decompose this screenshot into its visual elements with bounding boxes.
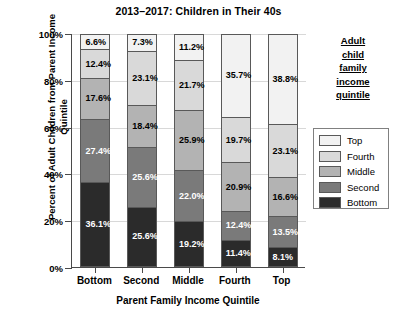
x-axis-tick <box>236 267 237 273</box>
bar-segment[interactable]: 25.6% <box>127 147 157 207</box>
bar-segment-label: 23.1% <box>269 147 299 156</box>
x-axis-tick-label: Second <box>123 275 159 286</box>
bar-segment-label: 22.0% <box>175 192 205 201</box>
bar-segment-label: 27.4% <box>81 147 111 156</box>
legend-item-label: Top <box>347 135 362 146</box>
chart-title: 2013–2017: Children in Their 40s <box>0 5 397 17</box>
x-axis-tick-label: Fourth <box>219 275 251 286</box>
y-axis-tick <box>65 34 72 35</box>
legend-box: TopFourthMiddleSecondBottom <box>313 128 389 209</box>
bar-segment[interactable]: 7.3% <box>127 34 157 52</box>
legend-swatch <box>319 182 341 193</box>
bar-segment[interactable]: 21.7% <box>174 60 204 111</box>
x-axis-title: Parent Family Income Quintile <box>71 295 305 306</box>
bar-segment[interactable]: 6.6% <box>80 34 110 50</box>
bar-segment[interactable]: 27.4% <box>80 119 110 184</box>
y-axis-tick-label: 20% <box>44 216 63 227</box>
legend-title-line: Adult <box>313 34 393 48</box>
y-axis-tick <box>65 268 72 269</box>
x-axis-tick <box>189 267 190 273</box>
legend-title-line: family <box>313 61 393 75</box>
bar-segment[interactable]: 23.1% <box>268 124 298 179</box>
bar-segment-label: 16.6% <box>269 193 299 202</box>
y-axis-tick-label: 40% <box>44 169 63 180</box>
bar-segment[interactable]: 36.1% <box>80 182 110 267</box>
bar-segment[interactable]: 11.4% <box>221 240 251 267</box>
y-axis-tick-label: 80% <box>44 75 63 86</box>
x-axis-tick <box>283 267 284 273</box>
bar-segment-label: 6.6% <box>81 38 106 47</box>
bar-segment-label: 12.4% <box>81 60 111 69</box>
legend-item-label: Middle <box>347 166 375 177</box>
x-axis-tick <box>95 267 96 273</box>
bar-segment[interactable]: 23.1% <box>127 51 157 106</box>
x-axis-tick-label: Top <box>273 275 291 286</box>
y-axis-tick <box>65 81 72 82</box>
bar-stack[interactable]: 38.8%23.1%16.6%13.5%8.1% <box>268 34 298 267</box>
bar-segment-label: 25.6% <box>128 173 158 182</box>
legend-item-label: Bottom <box>347 197 377 208</box>
bar-segment[interactable]: 12.4% <box>80 49 110 79</box>
y-axis-tick <box>65 221 72 222</box>
bar-segment-label: 21.7% <box>175 81 205 90</box>
legend-title-line: quintile <box>313 88 393 102</box>
bar-segment-label: 36.1% <box>81 220 111 229</box>
legend-swatch <box>319 151 341 162</box>
bar-segment[interactable]: 17.6% <box>80 78 110 120</box>
bar-segment-label: 8.1% <box>269 253 294 262</box>
bar-segment[interactable]: 19.2% <box>174 221 204 267</box>
bar-segment[interactable]: 11.2% <box>174 34 204 61</box>
bar-stack[interactable]: 6.6%12.4%17.6%27.4%36.1% <box>80 34 110 267</box>
bar-segment-label: 18.4% <box>128 122 158 131</box>
legend-item[interactable]: Bottom <box>319 195 388 210</box>
bar-segment[interactable]: 16.6% <box>268 177 298 216</box>
bar-segment-label: 19.2% <box>175 240 205 249</box>
x-axis-tick <box>142 267 143 273</box>
bar-segment-label: 23.1% <box>128 74 158 83</box>
legend-swatch <box>319 135 341 146</box>
chart-canvas: 2013–2017: Children in Their 40s Percent… <box>0 0 397 325</box>
x-axis-tick-label: Middle <box>172 275 204 286</box>
bar-segment[interactable]: 13.5% <box>268 216 298 248</box>
bar-segment[interactable]: 20.9% <box>221 162 251 211</box>
bar-segment-label: 38.8% <box>269 75 299 84</box>
legend-swatch <box>319 197 341 208</box>
bar-segment[interactable]: 38.8% <box>268 34 298 125</box>
bar-segment-label: 35.7% <box>222 71 252 80</box>
legend-item-label: Fourth <box>347 151 374 162</box>
bar-segment-label: 20.9% <box>222 183 252 192</box>
legend-item[interactable]: Fourth <box>319 149 388 164</box>
bar-segment-label: 7.3% <box>128 38 153 47</box>
legend-item[interactable]: Second <box>319 180 388 195</box>
y-axis-tick <box>65 128 72 129</box>
legend-title-line: child <box>313 48 393 62</box>
bar-stack[interactable]: 35.7%19.7%20.9%12.4%11.4% <box>221 34 251 267</box>
bar-segment-label: 11.4% <box>222 249 251 258</box>
legend-title-line: income <box>313 75 393 89</box>
bar-segment-label: 19.7% <box>222 136 252 145</box>
legend-item-label: Second <box>347 182 379 193</box>
legend-title: Adultchildfamilyincomequintile <box>313 34 393 102</box>
bar-segment[interactable]: 18.4% <box>127 105 157 149</box>
bar-segment[interactable]: 35.7% <box>221 34 251 118</box>
legend-item[interactable]: Middle <box>319 164 388 179</box>
bar-segment[interactable]: 25.9% <box>174 110 204 171</box>
bar-segment-label: 13.5% <box>269 228 299 237</box>
legend-item[interactable]: Top <box>319 133 388 148</box>
bar-segment[interactable]: 19.7% <box>221 117 251 164</box>
bar-segment[interactable]: 12.4% <box>221 211 251 241</box>
legend-swatch <box>319 166 341 177</box>
x-axis-tick-label: Bottom <box>77 275 112 286</box>
plot-area: 0%20%40%60%80%100%6.6%12.4%17.6%27.4%36.… <box>71 34 305 268</box>
bar-segment-label: 17.6% <box>81 94 111 103</box>
bar-segment-label: 25.6% <box>128 232 158 241</box>
bar-stack[interactable]: 11.2%21.7%25.9%22.0%19.2% <box>174 34 204 267</box>
bar-segment-label: 25.9% <box>175 136 205 145</box>
y-axis-tick-label: 0% <box>49 263 63 274</box>
y-axis-tick <box>65 174 72 175</box>
bar-stack[interactable]: 7.3%23.1%18.4%25.6%25.6% <box>127 34 157 267</box>
bar-segment[interactable]: 22.0% <box>174 170 204 222</box>
y-axis-tick-label: 100% <box>39 29 63 40</box>
bar-segment[interactable]: 25.6% <box>127 207 157 267</box>
bar-segment[interactable]: 8.1% <box>268 247 298 267</box>
